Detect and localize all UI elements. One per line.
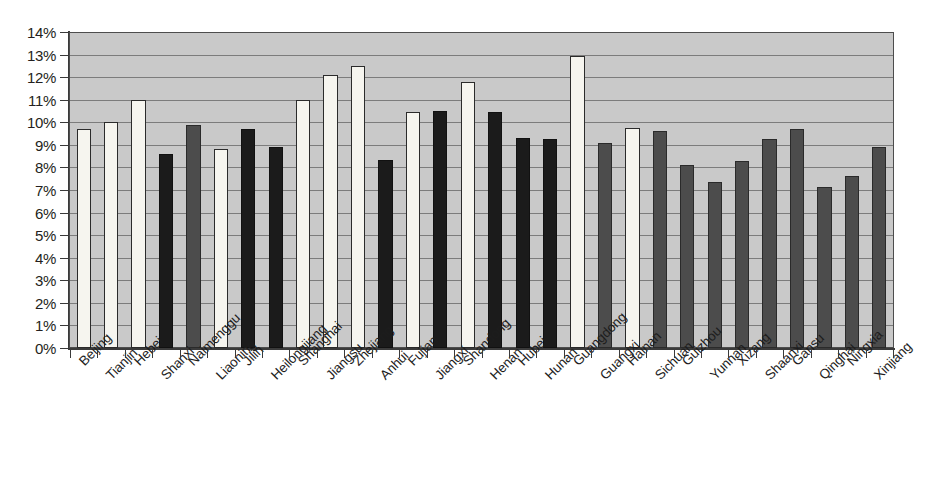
bar[interactable] [790,129,804,348]
bar[interactable] [845,176,859,348]
y-axis-tick-label: 4% [35,249,56,266]
bar[interactable] [433,111,447,348]
bar-slot [570,33,584,348]
x-axis-tick-mark [482,350,483,358]
bar[interactable] [735,161,749,348]
x-axis-tick-mark [180,350,181,358]
x-axis-tick-mark [893,350,894,358]
bar-slot [406,33,420,348]
bar[interactable] [323,75,337,348]
x-axis-tick-mark [509,350,510,358]
bar-slot [516,33,530,348]
bar[interactable] [817,187,831,348]
x-axis-tick-label: Henan [487,345,525,383]
bar-slot [131,33,145,348]
bar-slot [790,33,804,348]
bar-slot [598,33,612,348]
x-axis-tick-mark [152,350,153,358]
bar-slot [817,33,831,348]
x-axis-tick-mark [289,350,290,358]
x-axis-tick-mark [427,350,428,358]
bar-slot [735,33,749,348]
bar-slot [296,33,310,348]
bar-slot [269,33,283,348]
bar-slot [845,33,859,348]
bar[interactable] [570,56,584,348]
bar[interactable] [269,147,283,348]
bar[interactable] [488,112,502,348]
bar[interactable] [104,122,118,348]
bar[interactable] [186,125,200,348]
bar-slot [488,33,502,348]
bar-slot [762,33,776,348]
bar-slot [323,33,337,348]
x-axis-tick-mark [207,350,208,358]
x-axis-tick-label: Tianjin [103,345,140,382]
bar-slot [625,33,639,348]
bar[interactable] [406,112,420,348]
bar[interactable] [708,182,722,348]
x-axis-tick-mark [811,350,812,358]
y-axis-tick-label: 8% [35,159,56,176]
bar[interactable] [241,129,255,348]
bar-slot [77,33,91,348]
x-axis-tick-mark [728,350,729,358]
y-axis-tick-label: 9% [35,136,56,153]
x-axis-tick-mark [70,350,71,358]
x-axis-tick-label: Hunan [542,345,580,383]
bar[interactable] [77,129,91,348]
bar[interactable] [296,100,310,348]
x-axis-tick-mark [674,350,675,358]
bar-slot [433,33,447,348]
x-axis-labels: BeijingTianjinHebeiShanxiNaimengguLiaoni… [0,352,930,478]
y-axis-tick-label: 6% [35,204,56,221]
x-axis-tick-mark [344,350,345,358]
bar[interactable] [159,154,173,348]
bar-slot [186,33,200,348]
y-axis: 0%1%2%3%4%5%6%7%8%9%10%11%12%13%14% [0,0,69,360]
bar[interactable] [351,66,365,348]
x-axis-tick-mark [125,350,126,358]
x-axis-tick-mark [646,350,647,358]
x-axis-tick-mark [701,350,702,358]
bar[interactable] [516,138,530,348]
y-axis-tick-label: 3% [35,272,56,289]
x-axis-tick-mark [838,350,839,358]
bar-slot [543,33,557,348]
bar[interactable] [461,82,475,348]
bar-slot [104,33,118,348]
bar[interactable] [543,139,557,348]
bar-slot [653,33,667,348]
y-axis-tick-label: 13% [27,46,56,63]
bar[interactable] [680,165,694,348]
bar-slot [159,33,173,348]
bar[interactable] [625,128,639,348]
x-axis-tick-mark [866,350,867,358]
x-axis-tick-mark [783,350,784,358]
bar-slot [461,33,475,348]
x-axis-tick-mark [399,350,400,358]
bar-slot [241,33,255,348]
y-axis-tick-label: 14% [27,24,56,41]
x-axis-tick-mark [262,350,263,358]
x-axis-tick-mark [317,350,318,358]
x-axis-tick-mark [97,350,98,358]
y-axis-tick-label: 7% [35,182,56,199]
bar[interactable] [131,100,145,348]
bar-slot [351,33,365,348]
bar-chart: 0%1%2%3%4%5%6%7%8%9%10%11%12%13%14% Beij… [0,0,930,478]
bar-slot [214,33,228,348]
bar-slot [378,33,392,348]
bars-layer [70,33,893,348]
y-axis-tick-label: 1% [35,317,56,334]
bar-slot [872,33,886,348]
x-axis-tick-label: Anhui [377,348,411,382]
y-axis-tick-label: 11% [28,91,56,108]
bar[interactable] [762,139,776,348]
bar[interactable] [653,131,667,348]
bar-slot [680,33,694,348]
y-axis-tick-label: 2% [35,294,56,311]
y-axis-tick-label: 5% [35,227,56,244]
bar[interactable] [378,160,392,348]
bar[interactable] [872,147,886,348]
